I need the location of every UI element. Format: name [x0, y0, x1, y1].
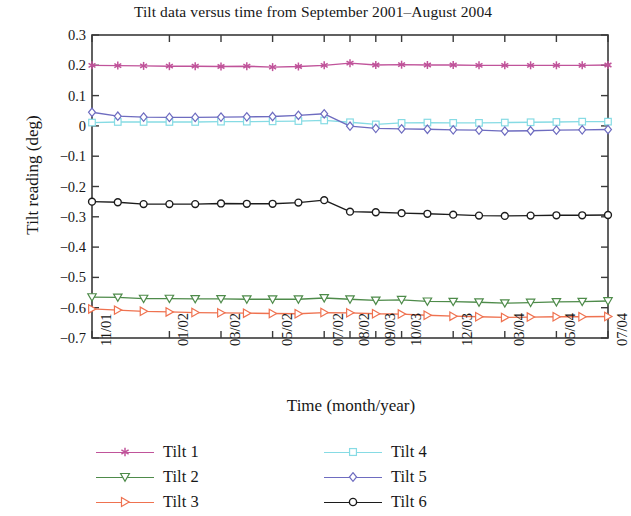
x-tick-label: 09/03 — [382, 313, 399, 346]
x-tick-label: 10/03 — [408, 313, 425, 346]
x-tick-label: 03/02 — [227, 313, 244, 346]
legend-item-tilt-4: Tilt 4 — [324, 440, 427, 464]
data-point-marker — [121, 448, 128, 456]
legend-sample-square-icon — [324, 444, 382, 460]
data-point-marker — [121, 498, 129, 507]
data-point-marker — [350, 449, 357, 456]
legend-item-tilt-2: Tilt 2 — [96, 465, 199, 489]
legend-sample-triangle-down-icon — [96, 469, 154, 485]
x-tick-label: 05/02 — [279, 313, 296, 346]
legend-label: Tilt 5 — [391, 467, 427, 487]
x-tick-label: 07/04 — [614, 313, 631, 346]
data-point-marker — [349, 498, 356, 505]
x-tick-label: 05/04 — [562, 313, 579, 346]
legend-sample-diamond-icon — [324, 469, 382, 485]
x-tick-label: 08/02 — [356, 313, 373, 346]
legend-label: Tilt 1 — [163, 442, 199, 462]
legend-label: Tilt 6 — [391, 492, 427, 512]
x-tick-label: 01/02 — [175, 313, 192, 346]
legend-sample-triangle-right-icon — [96, 494, 154, 510]
x-tick-label: 03/04 — [511, 313, 528, 346]
legend-label: Tilt 3 — [163, 492, 199, 512]
legend-sample-star-icon — [96, 444, 154, 460]
legend-label: Tilt 4 — [391, 442, 427, 462]
x-tick-label: 11/01 — [98, 314, 115, 347]
data-point-marker — [121, 473, 130, 481]
legend-sample-circle-icon — [324, 494, 382, 510]
legend-item-tilt-5: Tilt 5 — [324, 465, 427, 489]
legend-item-tilt-6: Tilt 6 — [324, 490, 427, 514]
x-tick-label: 07/02 — [330, 313, 347, 346]
legend-item-tilt-3: Tilt 3 — [96, 490, 199, 514]
legend-label: Tilt 2 — [163, 467, 199, 487]
x-tick-label: 12/03 — [459, 313, 476, 346]
data-point-marker — [349, 473, 356, 482]
chart-legend: Tilt 1Tilt 2Tilt 3Tilt 4Tilt 5Tilt 6 — [96, 440, 536, 514]
legend-item-tilt-1: Tilt 1 — [96, 440, 199, 464]
